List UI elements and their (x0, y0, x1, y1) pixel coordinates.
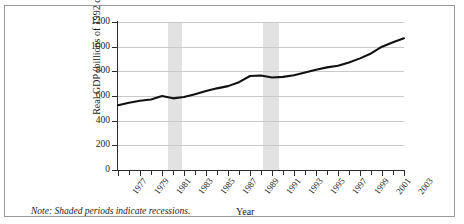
x-axis-tick (393, 171, 394, 175)
x-axis-tick (173, 171, 174, 175)
y-axis-title: Real GDP (billions of 1992 dollars) (91, 0, 102, 129)
x-axis-tick (239, 171, 240, 175)
y-axis-tick (112, 121, 117, 122)
y-axis-tick (112, 170, 117, 171)
x-axis-tick (129, 171, 130, 175)
y-axis-title-host: Real GDP (billions of 1992 dollars) (44, 26, 60, 166)
x-axis-tick (195, 171, 196, 175)
x-axis-tick (371, 171, 372, 175)
gdp-line-path (118, 38, 404, 105)
x-axis-tick (305, 171, 306, 175)
y-axis-tick-label: 0 (105, 165, 110, 174)
x-axis-tick (261, 171, 262, 175)
figure-note: Note: Shaded periods indicate recessions… (31, 206, 190, 216)
y-axis-tick (112, 71, 117, 72)
y-axis-tick (112, 22, 117, 23)
y-axis-tick-labels: 120010008006004002000 (60, 0, 110, 224)
x-axis-tick (151, 171, 152, 175)
x-axis-tick (327, 171, 328, 175)
x-axis-title: Year (236, 206, 254, 217)
y-axis-tick-label: 200 (96, 140, 110, 149)
x-axis-tick (283, 171, 284, 175)
x-axis-tick (118, 171, 119, 176)
y-axis-tick (112, 96, 117, 97)
figure-container: 120010008006004002000 197719791981198319… (0, 0, 464, 224)
x-axis-tick (349, 171, 350, 175)
y-axis-tick (112, 47, 117, 48)
gdp-line-series (118, 22, 404, 170)
y-axis-tick (112, 145, 117, 146)
x-axis-tick (217, 171, 218, 175)
